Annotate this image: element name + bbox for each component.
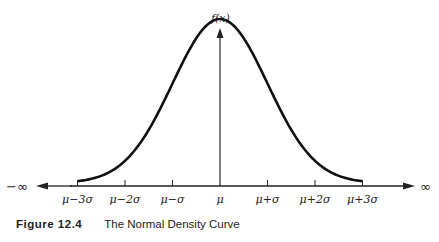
- neg-infinity-label: −∞: [6, 179, 28, 194]
- x-axis-right-arrow: [403, 183, 415, 190]
- figure-caption: Figure 12.4The Normal Density Curve: [16, 218, 240, 230]
- x-tick-label: μ+3σ: [347, 193, 378, 206]
- x-tick-label: μ−3σ: [62, 193, 93, 206]
- y-axis-arrow: [217, 28, 224, 38]
- figure: −∞ ∞ f(x) μ−3σμ−2σμ−σμμ+σμ+2σμ+3σ Figure…: [0, 0, 439, 242]
- caption-text: The Normal Density Curve: [104, 218, 239, 230]
- x-tick-label: μ+2σ: [300, 193, 331, 206]
- x-tick-label: μ+σ: [256, 193, 280, 206]
- caption-number: Figure 12.4: [16, 218, 82, 230]
- x-tick-label: μ−σ: [161, 193, 185, 206]
- x-tick-label: μ: [216, 193, 223, 206]
- normal-curve-chart: −∞ ∞ f(x) μ−3σμ−2σμ−σμμ+σμ+2σμ+3σ: [0, 0, 439, 242]
- pos-infinity-label: ∞: [420, 179, 431, 194]
- x-tick-label: μ−2σ: [110, 193, 141, 206]
